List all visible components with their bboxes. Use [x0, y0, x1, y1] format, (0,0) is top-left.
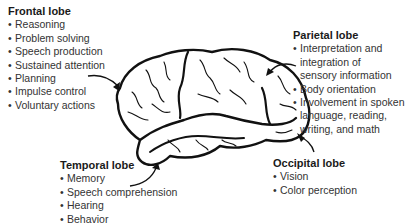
list-item: Sustained attention — [8, 59, 105, 72]
list-item: Involvement in spoken language, reading,… — [293, 96, 404, 136]
list-item: Planning — [8, 72, 105, 85]
list-item: Behavior — [60, 213, 177, 224]
temporal-lobe-list: Memory Speech comprehension Hearing Beha… — [60, 172, 177, 224]
list-item: Hearing — [60, 199, 177, 212]
list-item: Color perception — [273, 184, 357, 197]
brain-outline — [117, 49, 309, 165]
list-item: Speech production — [8, 45, 105, 58]
occipital-lobe-block: Occipital lobe Vision Color perception — [273, 157, 357, 197]
parietal-lobe-block: Parietal lobe Interpretation and integra… — [293, 29, 404, 136]
list-item: Vision — [273, 170, 357, 183]
list-item: Memory — [60, 172, 177, 185]
parietal-lobe-list: Interpretation and integration of sensor… — [293, 42, 404, 136]
list-item: Problem solving — [8, 32, 105, 45]
occipital-lobe-title: Occipital lobe — [273, 157, 357, 170]
list-item: Impulse control — [8, 85, 105, 98]
list-item: Voluntary actions — [8, 99, 105, 112]
list-item: Body orientation — [293, 83, 404, 96]
temporal-lobe-title: Temporal lobe — [60, 159, 177, 172]
arrowhead-icon — [113, 82, 120, 91]
list-item: Reasoning — [8, 18, 105, 31]
list-item: Speech comprehension — [60, 186, 177, 199]
frontal-lobe-title: Frontal lobe — [8, 5, 105, 18]
frontal-lobe-list: Reasoning Problem solving Speech product… — [8, 18, 105, 112]
parietal-lobe-title: Parietal lobe — [293, 29, 404, 42]
frontal-lobe-block: Frontal lobe Reasoning Problem solving S… — [8, 5, 105, 112]
temporal-lobe-block: Temporal lobe Memory Speech comprehensio… — [60, 159, 177, 224]
list-item: Interpretation and integration of sensor… — [293, 42, 404, 82]
occipital-lobe-list: Vision Color perception — [273, 170, 357, 197]
